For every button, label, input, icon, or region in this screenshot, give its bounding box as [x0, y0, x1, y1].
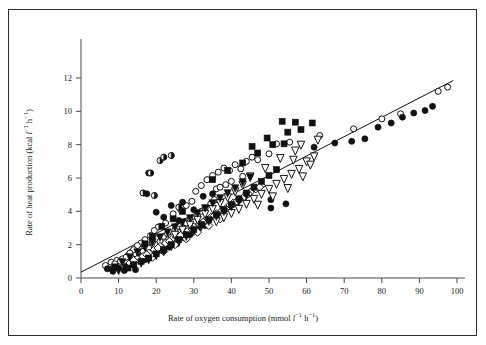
point-open-triangle	[290, 156, 298, 164]
point-filled-square	[309, 120, 315, 126]
point-half-circle	[151, 193, 157, 199]
point-filled-square	[125, 265, 131, 271]
point-half-circle	[140, 190, 146, 196]
x-tick-label: 20	[152, 286, 161, 296]
point-filled-square	[206, 217, 212, 223]
figure-page: 0102030405060708090100024681012 Rate of …	[0, 0, 486, 345]
point-filled-square	[183, 232, 189, 238]
point-open-triangle	[265, 185, 273, 193]
point-filled-circle	[411, 110, 417, 116]
x-axis-title-prefix: Rate of oxygen consumption (mmol	[168, 313, 293, 323]
point-open-triangle	[292, 147, 300, 155]
x-tick-label: 10	[114, 286, 123, 296]
point-filled-circle	[168, 203, 174, 209]
point-filled-circle	[268, 205, 274, 211]
point-filled-circle	[332, 140, 338, 146]
point-open-circle	[238, 166, 244, 172]
point-open-circle	[198, 183, 204, 189]
point-filled-circle	[362, 136, 368, 142]
point-half-circle	[161, 154, 167, 160]
point-filled-square	[258, 178, 264, 184]
y-axis-title-unit2: h	[24, 119, 34, 125]
point-filled-circle	[388, 120, 394, 126]
point-filled-square	[292, 119, 298, 125]
y-tick-label: 4	[68, 206, 73, 216]
y-axis-title-exp1: −1	[22, 125, 29, 132]
point-open-triangle	[288, 170, 296, 178]
y-tick-label: 12	[64, 73, 73, 83]
point-filled-square	[131, 262, 137, 268]
point-half-circle	[148, 170, 154, 176]
y-axis-title-prefix: Rate of heat production (kcal	[24, 134, 34, 235]
point-open-circle	[445, 84, 451, 90]
point-filled-square	[159, 223, 165, 229]
point-filled-square	[170, 216, 176, 222]
point-filled-square	[146, 255, 152, 261]
y-tick-label: 2	[68, 240, 72, 250]
x-tick-label: 40	[227, 286, 236, 296]
point-open-triangle	[254, 201, 262, 209]
point-open-circle	[232, 162, 238, 168]
point-filled-square	[285, 129, 291, 135]
point-open-triangle	[235, 205, 243, 213]
y-axis-title-exp2: −1	[22, 112, 29, 119]
scatter-plot: 0102030405060708090100024681012	[9, 10, 476, 335]
point-filled-square	[191, 227, 197, 233]
point-filled-square	[228, 202, 234, 208]
point-half-circle	[168, 153, 174, 159]
point-open-triangle	[261, 165, 269, 173]
point-filled-square	[255, 150, 261, 156]
y-tick-label: 6	[68, 173, 72, 183]
point-filled-triangle	[247, 174, 254, 182]
x-axis-title-exp1: −1	[295, 311, 302, 318]
point-open-circle	[249, 154, 255, 160]
point-filled-circle	[422, 108, 428, 114]
x-tick-label: 80	[378, 286, 387, 296]
point-open-circle	[379, 116, 385, 122]
point-filled-square	[142, 241, 148, 247]
point-open-circle	[189, 198, 195, 204]
point-open-circle	[351, 126, 357, 132]
point-open-circle	[255, 157, 261, 163]
point-filled-square	[243, 190, 249, 196]
figure-frame: 0102030405060708090100024681012	[8, 9, 477, 336]
point-open-circle	[435, 88, 441, 94]
point-filled-square	[281, 141, 287, 147]
point-filled-square	[176, 237, 182, 243]
point-filled-square	[279, 118, 285, 124]
point-filled-square	[249, 143, 255, 149]
point-filled-square	[298, 127, 304, 133]
point-filled-circle	[283, 201, 289, 207]
point-filled-square	[198, 222, 204, 228]
point-open-triangle	[314, 136, 322, 144]
point-filled-square	[225, 168, 231, 174]
x-axis-title: Rate of oxygen consumption (mmol l−1 h−1…	[0, 311, 486, 323]
point-filled-circle	[375, 124, 381, 130]
point-open-triangle	[299, 173, 307, 181]
point-open-circle	[228, 178, 234, 184]
point-open-triangle	[243, 200, 251, 208]
point-filled-square	[180, 208, 186, 214]
point-open-circle	[287, 139, 293, 145]
point-filled-square	[240, 160, 246, 166]
y-axis-title-wrapper: Rate of heat production (kcal l−1 h−1)	[22, 0, 52, 345]
point-filled-circle	[399, 114, 405, 120]
point-filled-circle	[153, 209, 159, 215]
x-tick-label: 70	[340, 286, 349, 296]
y-tick-label: 0	[68, 273, 72, 283]
x-tick-label: 60	[302, 286, 311, 296]
x-axis-title-suffix: )	[315, 313, 318, 323]
point-filled-square	[213, 212, 219, 218]
point-open-circle	[215, 169, 221, 175]
point-filled-square	[251, 184, 257, 190]
point-open-circle	[240, 173, 246, 179]
point-filled-square	[266, 173, 272, 179]
point-filled-square	[270, 142, 276, 148]
x-tick-label: 100	[451, 286, 464, 296]
point-filled-circle	[349, 138, 355, 144]
point-filled-square	[210, 177, 216, 183]
point-filled-square	[264, 135, 270, 141]
point-filled-square	[153, 251, 159, 257]
point-filled-square	[221, 207, 227, 213]
point-open-triangle	[284, 185, 292, 193]
